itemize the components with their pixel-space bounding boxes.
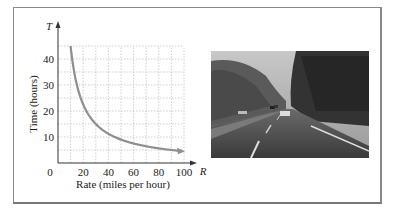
y-tick-label: 40	[43, 53, 55, 65]
x-tick-label: 0	[47, 166, 53, 178]
x-tick-label: 100	[176, 166, 193, 178]
x-axis-arrow-icon	[190, 161, 197, 166]
x-axis-symbol: R	[199, 165, 207, 177]
x-axis-label: Rate (miles per hour)	[76, 178, 170, 191]
y-tick-label: 10	[43, 131, 55, 143]
y-axis-arrow-icon	[56, 21, 61, 28]
axes	[56, 21, 198, 166]
x-tick-label: 40	[103, 166, 115, 178]
grid	[58, 46, 184, 163]
x-tick-label: 20	[78, 166, 90, 178]
curve-line	[71, 46, 179, 151]
x-tick-label: 60	[128, 166, 140, 178]
y-tick-label: 20	[43, 105, 55, 117]
x-tick-label: 80	[153, 166, 165, 178]
highway-photo	[211, 51, 369, 158]
y-tick-label: 30	[43, 79, 55, 91]
y-axis-label: Time (hours)	[27, 75, 40, 133]
y-axis-symbol: T	[46, 20, 53, 32]
